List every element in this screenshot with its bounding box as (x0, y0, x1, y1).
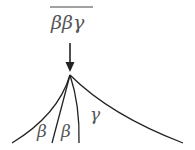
branch-label-1: β (36, 121, 47, 141)
branch-label-2: β (60, 121, 71, 141)
fan-diagram: ββγ β β γ (0, 0, 195, 150)
branch-label-3: γ (90, 104, 101, 124)
top-label: ββγ (50, 11, 85, 33)
down-arrow-icon (66, 43, 75, 72)
curve-right (70, 75, 183, 143)
curve-mid-right (70, 75, 79, 143)
